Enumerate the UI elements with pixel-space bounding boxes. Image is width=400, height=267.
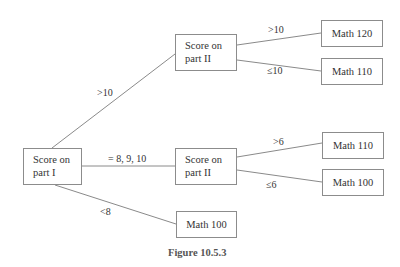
node-score-part-two-top: Score on part II bbox=[175, 34, 237, 71]
node-score-part-two-middle: Score on part II bbox=[175, 148, 237, 185]
edge-label-part2-greater-than-10: >10 bbox=[268, 24, 284, 35]
node-label: Math 110 bbox=[333, 139, 373, 152]
node-math-110-top: Math 110 bbox=[321, 58, 383, 85]
node-math-100-middle: Math 100 bbox=[322, 169, 384, 196]
edge-label-part2-at-most-10: ≤10 bbox=[267, 65, 283, 76]
node-text-line1: Score on bbox=[185, 153, 236, 166]
edge-label-part2-at-most-6: ≤6 bbox=[266, 179, 277, 190]
node-label: Math 100 bbox=[333, 176, 374, 189]
node-label: Math 100 bbox=[186, 218, 227, 231]
edge-root-to-part2-top bbox=[52, 54, 175, 148]
node-text-line1: Score on bbox=[33, 153, 81, 166]
node-text-line1: Score on bbox=[185, 39, 236, 52]
node-label: Math 120 bbox=[332, 27, 373, 40]
figure-caption: Figure 10.5.3 bbox=[168, 247, 226, 258]
edge-label-equals-8-9-10: = 8, 9, 10 bbox=[108, 153, 146, 164]
edge-part2-mid-to-math100 bbox=[237, 170, 322, 182]
node-math-110-middle: Math 110 bbox=[322, 132, 384, 159]
node-math-100-bottom: Math 100 bbox=[176, 211, 237, 238]
node-text-line2: part II bbox=[185, 166, 236, 179]
edge-label-greater-than-10: >10 bbox=[97, 87, 113, 98]
node-label: Math 110 bbox=[332, 65, 372, 78]
edge-label-less-than-8: <8 bbox=[100, 206, 111, 217]
edge-root-to-math100-bottom bbox=[55, 185, 176, 224]
node-math-120: Math 120 bbox=[321, 20, 383, 47]
node-score-part-one: Score on part I bbox=[23, 148, 82, 185]
edge-label-part2-greater-than-6: >6 bbox=[273, 136, 284, 147]
node-text-line2: part I bbox=[33, 166, 81, 179]
node-text-line2: part II bbox=[185, 52, 236, 65]
